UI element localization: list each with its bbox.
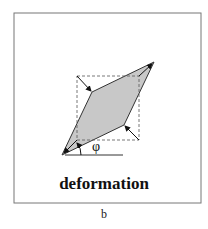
compression-arrow-top-left bbox=[77, 76, 91, 91]
deformation-diagram bbox=[0, 0, 208, 229]
compression-arrow-bottom-right bbox=[125, 126, 139, 140]
angle-label-phi: φ bbox=[92, 139, 100, 155]
panel-label: b bbox=[0, 207, 208, 222]
diagram-title: deformation bbox=[0, 174, 208, 194]
